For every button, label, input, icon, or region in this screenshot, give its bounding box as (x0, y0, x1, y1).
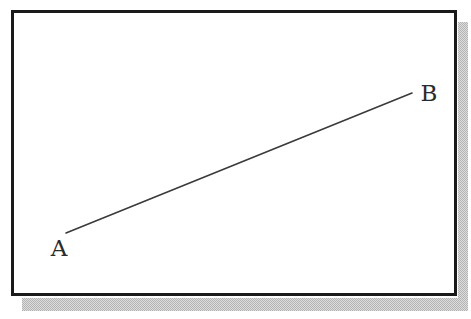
figure-canvas: A B (0, 0, 471, 319)
frame-shadow-right (458, 22, 468, 298)
point-label-b: B (421, 82, 438, 105)
point-label-a: A (51, 237, 68, 260)
figure-frame (11, 10, 457, 296)
frame-shadow-bottom (22, 298, 468, 311)
